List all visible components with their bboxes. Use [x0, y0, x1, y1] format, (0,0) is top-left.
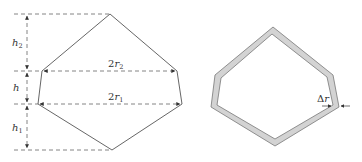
left-figure: h2 h h1 2r2 2r1 [12, 14, 182, 150]
diagram-canvas: h2 h h1 2r2 2r1 Δr [0, 0, 362, 162]
hexagon-wall [211, 27, 339, 146]
label-h2: h2 [12, 37, 23, 50]
label-delta-r: Δr [317, 93, 330, 104]
label-2r1: 2r1 [108, 91, 123, 104]
label-h: h [13, 82, 19, 93]
hexagon-outline [38, 14, 182, 150]
right-figure: Δr [211, 27, 350, 146]
label-2r2: 2r2 [108, 58, 123, 71]
label-h1: h1 [12, 122, 23, 135]
